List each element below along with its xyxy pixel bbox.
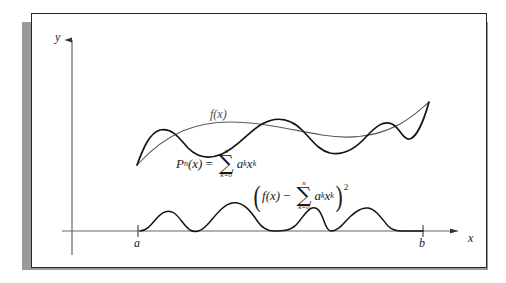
formula-err-summation: n ∑ k=0 [296, 180, 311, 211]
sigma-icon: ∑ [219, 155, 234, 172]
curve-label-fx: f(x) [210, 107, 227, 122]
x-tick-label-b: b [419, 236, 425, 251]
plot-canvas [0, 0, 506, 283]
figure-root: y x a b f(x) Pn(x) = n ∑ k=0 akxk ( f(x)… [0, 0, 506, 283]
x-tick-label-a: a [134, 236, 140, 251]
formula-pn-equals: = [202, 156, 215, 172]
x-axis-label: x [468, 231, 473, 246]
formula-polynomial: Pn(x) = n ∑ k=0 akxk [176, 148, 256, 179]
formula-pn-var-exponent: k [253, 159, 257, 168]
formula-err-f-arg: (x) [266, 188, 280, 204]
formula-err-var-exponent: k [330, 191, 334, 200]
formula-err-minus: − [280, 188, 293, 204]
formula-err-open-paren: ( [253, 187, 260, 205]
formula-squared-error: ( f(x) − n ∑ k=0 akxk ) 2 [252, 180, 348, 211]
formula-pn-arg: (x) [188, 156, 202, 172]
formula-pn-summation: n ∑ k=0 [219, 148, 234, 179]
sigma-icon: ∑ [296, 187, 311, 204]
formula-err-power: 2 [344, 182, 349, 192]
y-axis-label: y [55, 30, 60, 45]
formula-err-close-paren: ) [335, 187, 342, 205]
formula-pn-P: P [176, 156, 184, 172]
formula-err-sum-lower-limit: k=0 [298, 204, 309, 211]
formula-pn-sum-lower-limit: k=0 [221, 172, 232, 179]
